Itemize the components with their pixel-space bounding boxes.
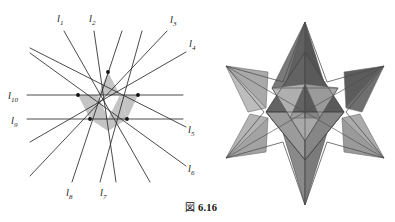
node-lower-right [125, 117, 129, 121]
label-l5: l5 [188, 124, 195, 138]
label-l1: l1 [57, 13, 63, 27]
label-l7: l7 [100, 187, 107, 201]
figure-caption-number: 6.16 [198, 202, 217, 213]
label-l4-sub: 4 [192, 44, 196, 52]
line-l5 [30, 48, 186, 127]
node-upper-left [76, 93, 80, 97]
label-l6: l6 [188, 163, 195, 177]
figure-caption: 図 6.16 [185, 199, 217, 214]
node-top [106, 70, 110, 74]
label-l10: l10 [8, 90, 18, 104]
arrangement-lines [27, 31, 186, 182]
label-l9-sub: 9 [14, 121, 18, 129]
stella-octangula-diagram [226, 22, 384, 205]
label-l2-sub: 2 [92, 19, 96, 27]
line-l7 [100, 31, 142, 182]
figure-caption-prefix: 図 [185, 202, 195, 213]
label-l10-sub: 10 [11, 96, 19, 104]
figure-6-16: l1 l2 l3 l4 l5 l6 l7 l8 l9 l10 [0, 0, 395, 222]
label-l5-sub: 5 [191, 130, 195, 138]
line-arrangement-diagram: l1 l2 l3 l4 l5 l6 l7 l8 l9 l10 [8, 13, 196, 201]
node-lower-left [88, 117, 92, 121]
label-l4: l4 [189, 38, 196, 52]
label-l8-sub: 8 [69, 193, 73, 201]
label-l6-sub: 6 [191, 169, 195, 177]
shaded-regions [78, 72, 138, 131]
node-upper-right [136, 93, 140, 97]
label-l2: l2 [89, 13, 96, 27]
label-l3-sub: 3 [172, 20, 177, 28]
label-l3: l3 [170, 14, 177, 28]
label-l8: l8 [66, 187, 73, 201]
line-l6 [30, 53, 186, 166]
figure-canvas: l1 l2 l3 l4 l5 l6 l7 l8 l9 l10 [0, 0, 395, 222]
label-l9: l9 [11, 115, 18, 129]
line-l3 [30, 31, 167, 176]
label-l7-sub: 7 [103, 193, 107, 201]
label-l1-sub: 1 [60, 19, 64, 27]
line-l1 [64, 31, 150, 182]
